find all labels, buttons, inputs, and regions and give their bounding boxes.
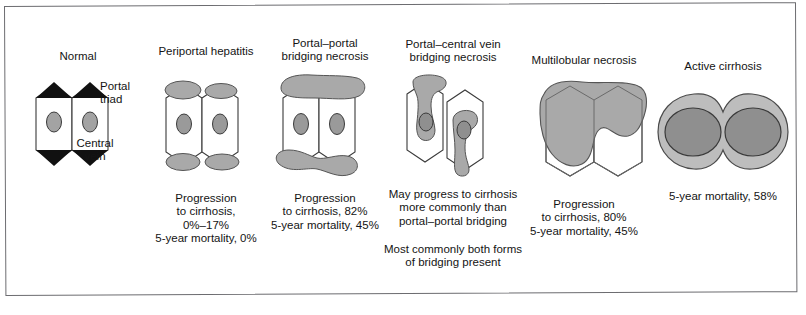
portal-triad-top-left-icon xyxy=(36,82,72,98)
portal-portal-lobule-svg xyxy=(265,72,385,192)
periportal-inflammation-top-left xyxy=(165,81,201,99)
periportal-inflammation-bottom-left xyxy=(166,154,200,171)
central-vein-right-icon xyxy=(457,121,471,139)
portal-triad-bottom-left-icon xyxy=(36,150,72,166)
cirrhosis-nodules-svg xyxy=(652,88,794,174)
panel-normal: Normal Portal triad Central vein xyxy=(8,0,148,315)
panel-periportal-hepatitis-art xyxy=(150,74,262,190)
central-vein-left-icon xyxy=(294,114,309,135)
panel-active-cirrhosis: Active cirrhosis 5-year mortality, 58% xyxy=(648,0,798,315)
periportal-lobule-svg xyxy=(150,74,262,190)
regenerative-nodule-left xyxy=(665,108,721,156)
regenerative-nodule-right xyxy=(725,108,781,156)
panel-active-cirrhosis-caption: 5-year mortality, 58% xyxy=(648,190,798,203)
central-vein-left-icon xyxy=(47,112,62,132)
periportal-inflammation-top-right xyxy=(205,84,237,99)
central-vein-left-icon xyxy=(177,114,192,134)
panel-portal-portal-bridging-art xyxy=(265,72,385,192)
panel-multilobular-necrosis: Multilobular necrosis Progression to cir… xyxy=(508,0,660,315)
central-vein-right-icon xyxy=(83,112,98,132)
panel-active-cirrhosis-art xyxy=(652,88,794,174)
central-vein-right-icon xyxy=(330,114,345,135)
panel-multilobular-necrosis-title: Multilobular necrosis xyxy=(508,54,660,67)
multilobular-lobule-svg xyxy=(520,78,650,190)
periportal-inflammation-bottom-right xyxy=(205,154,239,170)
panel-multilobular-necrosis-caption: Progression to cirrhosis, 80% 5-year mor… xyxy=(508,198,660,238)
portal-central-lobule-svg xyxy=(391,72,517,194)
central-vein-right-icon xyxy=(213,114,228,134)
hepatitis-progression-figure: Normal Portal triad Central vein Peripor… xyxy=(0,0,806,315)
panel-portal-central-bridging-art xyxy=(391,72,517,194)
central-vein-label: Central vein xyxy=(70,137,120,162)
portal-triad-label: Portal triad xyxy=(100,80,130,105)
panel-active-cirrhosis-title: Active cirrhosis xyxy=(648,60,798,73)
central-vein-left-icon xyxy=(419,113,433,131)
portal-portal-bridge-top xyxy=(281,75,365,99)
panel-multilobular-necrosis-art xyxy=(520,78,650,190)
panel-normal-title: Normal xyxy=(8,50,148,63)
